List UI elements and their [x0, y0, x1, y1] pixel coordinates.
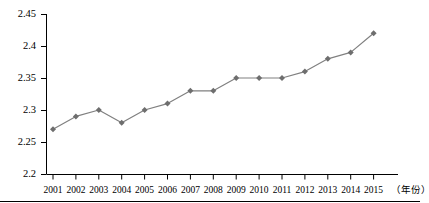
y-axis-tick-label: 2.2 [8, 169, 36, 180]
data-point-marker [119, 120, 125, 126]
x-axis-title: （年份） [391, 185, 429, 195]
y-axis-ticks [41, 15, 47, 175]
data-point-marker [96, 107, 102, 113]
data-point-marker [187, 88, 193, 94]
data-point-marker [302, 69, 308, 75]
bottom-rule [0, 201, 420, 202]
data-point-markers [50, 30, 377, 132]
y-axis-tick-label: 2.35 [8, 73, 36, 84]
data-point-marker [73, 113, 79, 119]
data-series-line [53, 33, 374, 129]
y-axis-tick-label: 2.4 [8, 41, 36, 52]
data-point-marker [279, 75, 285, 81]
axes [47, 14, 399, 175]
y-axis-tick-label: 2.45 [8, 9, 36, 20]
data-point-marker [233, 75, 239, 81]
y-axis-tick-label: 2.25 [8, 137, 36, 148]
data-point-marker [142, 107, 148, 113]
data-point-marker [325, 56, 331, 62]
data-point-marker [256, 75, 262, 81]
data-point-marker [210, 88, 216, 94]
data-point-marker [165, 101, 171, 107]
x-axis-tick-label: 2015 [360, 185, 388, 195]
data-point-marker [50, 126, 56, 132]
y-axis-tick-label: 2.3 [8, 105, 36, 116]
x-axis-ticks [53, 175, 374, 180]
